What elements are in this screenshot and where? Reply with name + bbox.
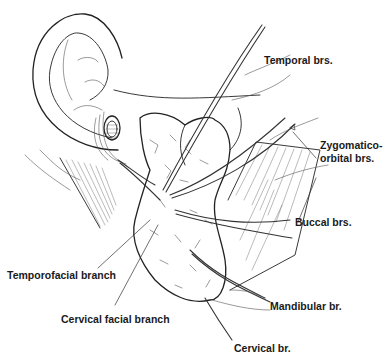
label-temporal-branches: Temporal brs.	[264, 54, 333, 66]
label-buccal-branches: Buccal brs.	[295, 216, 352, 228]
leader-lines	[98, 220, 158, 305]
label-zygomatico-orbital-line2: orbital brs.	[320, 152, 374, 164]
facial-nerve-branches	[118, 25, 328, 340]
label-cervical-branch: Cervical br.	[234, 342, 291, 354]
parotid-gland	[134, 108, 242, 301]
label-mandibular-branch: Mandibular br.	[270, 300, 342, 312]
sternocleidomastoid-muscle	[25, 150, 116, 228]
facial-nerve-diagram: Temporal brs. Zygomatico- orbital brs. B…	[0, 0, 389, 361]
label-zygomatico-orbital-line1: Zygomatico-	[320, 139, 382, 151]
label-temporofacial-branch: Temporofacial branch	[7, 269, 116, 281]
label-cervical-facial-branch: Cervical facial branch	[61, 313, 170, 325]
